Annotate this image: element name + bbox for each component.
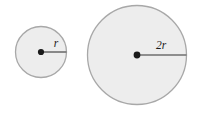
small-circle-center-dot (38, 49, 44, 55)
diagram-canvas: r 2r (0, 0, 198, 127)
large-circle-center-dot (134, 52, 141, 59)
large-circle-radius-label: 2r (156, 39, 167, 51)
small-circle-radius-label: r (54, 37, 59, 49)
small-circle-group: r (16, 27, 67, 78)
large-circle-group: 2r (88, 6, 187, 105)
circles-diagram: r 2r (0, 0, 198, 127)
